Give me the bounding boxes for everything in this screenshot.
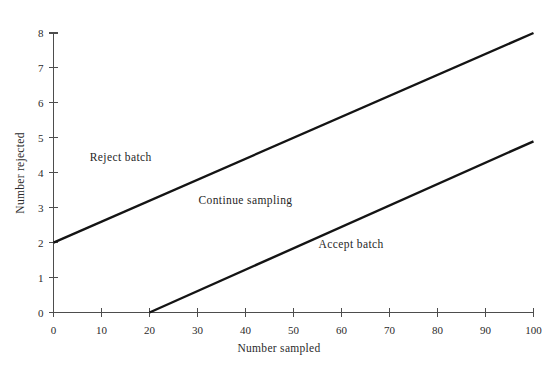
data-line (54, 33, 534, 243)
sequential-sampling-chart: 012345678 0102030405060708090100 Reject … (0, 0, 559, 372)
x-tick-label: 40 (240, 324, 252, 336)
x-tick-label: 10 (96, 324, 108, 336)
y-tick-label: 4 (38, 167, 44, 179)
y-tick-label: 0 (38, 307, 44, 319)
data-line (150, 141, 534, 312)
y-tick-label: 3 (38, 202, 44, 214)
region-label: Reject batch (90, 151, 152, 164)
y-tick-label: 2 (38, 237, 44, 249)
region-annotations-group: Reject batchContinue samplingAccept batc… (90, 151, 384, 251)
x-tick-label: 60 (336, 324, 348, 336)
x-axis-title: Number sampled (237, 342, 320, 355)
x-tick-label: 30 (192, 324, 204, 336)
y-axis-ticks: 012345678 (38, 27, 58, 319)
region-label: Accept batch (319, 238, 384, 251)
x-tick-label: 0 (51, 324, 57, 336)
x-tick-label: 100 (525, 324, 542, 336)
x-tick-label: 50 (288, 324, 300, 336)
x-tick-label: 90 (480, 324, 492, 336)
chart-canvas: 012345678 0102030405060708090100 Reject … (0, 0, 559, 372)
region-label: Continue sampling (198, 194, 292, 207)
y-tick-label: 1 (38, 272, 44, 284)
y-axis-title: Number rejected (14, 132, 27, 213)
data-series-group (54, 33, 534, 313)
y-tick-label: 5 (38, 132, 44, 144)
y-tick-label: 7 (38, 62, 44, 74)
x-tick-label: 20 (144, 324, 156, 336)
y-tick-label: 8 (38, 27, 44, 39)
x-tick-label: 70 (384, 324, 396, 336)
y-tick-label: 6 (38, 97, 44, 109)
x-tick-label: 80 (432, 324, 444, 336)
